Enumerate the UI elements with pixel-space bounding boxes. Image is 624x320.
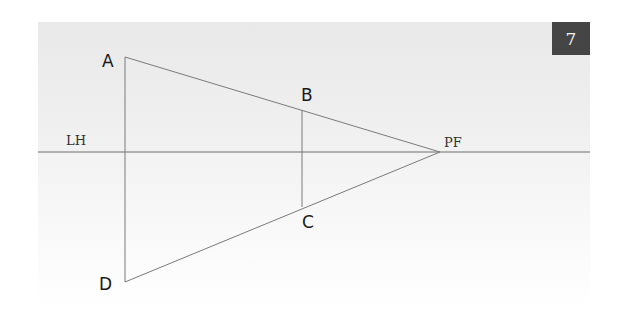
- perspective-diagram: [0, 0, 624, 320]
- point-b-label: B: [301, 87, 313, 104]
- horizon-label: LH: [66, 134, 86, 147]
- point-c-label: C: [302, 214, 314, 231]
- point-d-label: D: [99, 276, 112, 293]
- vanishing-point-label: PF: [444, 136, 462, 149]
- point-a-label: A: [102, 53, 114, 70]
- page-number-badge: 7: [552, 22, 590, 55]
- edge-d-pf: [125, 152, 440, 282]
- edge-a-pf: [125, 57, 440, 152]
